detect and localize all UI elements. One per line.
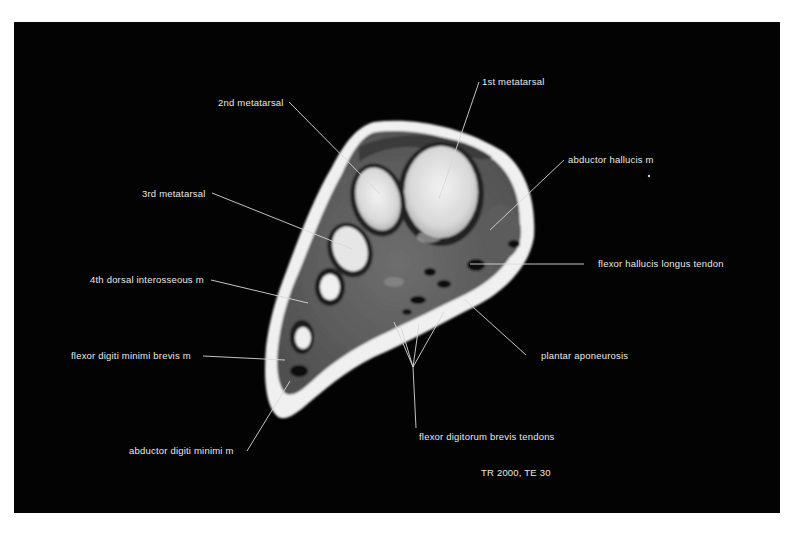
- label-3rd-metatarsal: 3rd metatarsal: [142, 188, 206, 199]
- sequence-parameters: TR 2000, TE 30: [481, 467, 551, 478]
- label-flexor-digitorum-brevis: flexor digitorum brevis tendons: [419, 431, 555, 442]
- label-4th-dorsal-interosseous: 4th dorsal interosseous m: [90, 274, 204, 285]
- label-abductor-digiti-minimi: abductor digiti minimi m: [129, 445, 234, 456]
- mri-image-frame: 2nd metatarsal 1st metatarsal 3rd metata…: [14, 22, 780, 513]
- label-abductor-hallucis: abductor hallucis m: [568, 154, 654, 165]
- label-1st-metatarsal: 1st metatarsal: [482, 76, 544, 87]
- label-flexor-hallucis-longus: flexor hallucis longus tendon: [598, 258, 724, 269]
- label-plantar-aponeurosis: plantar aponeurosis: [541, 350, 628, 361]
- label-2nd-metatarsal: 2nd metatarsal: [218, 97, 284, 108]
- label-flexor-digiti-minimi-brevis: flexor digiti minimi brevis m: [71, 350, 191, 361]
